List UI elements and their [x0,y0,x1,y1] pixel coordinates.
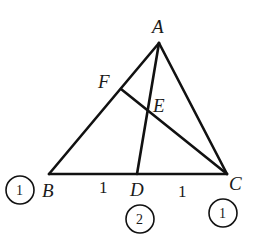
mass-point-c: 1 [209,199,237,227]
label-b: B [42,180,54,201]
svg-text:1: 1 [219,206,226,221]
label-c: C [229,173,242,194]
mass-point-d: 2 [126,205,154,233]
mass-point-b: 1 [6,176,34,204]
segment-ac [159,43,227,174]
label-a: A [150,16,164,37]
triangle-diagram: A F E B D C 1 1 1 2 1 [0,0,262,250]
label-e: E [152,95,165,116]
svg-text:2: 2 [136,212,143,227]
label-d: D [129,179,144,200]
length-dc: 1 [178,182,187,201]
svg-text:1: 1 [16,183,23,198]
segment-cf [121,89,227,174]
segment-ab [49,43,159,174]
label-f: F [97,71,110,92]
length-bd: 1 [99,178,108,197]
